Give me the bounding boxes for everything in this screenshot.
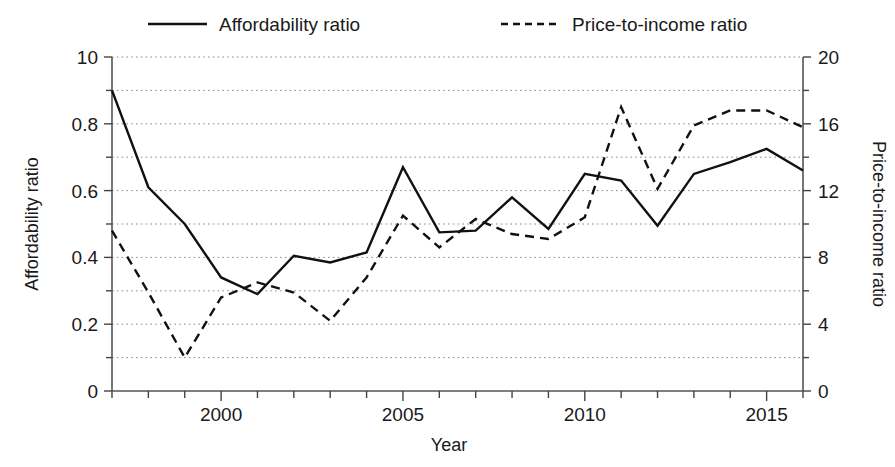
- x-axis-tick-label: 2010: [564, 404, 606, 425]
- data-series-layer: [112, 90, 803, 357]
- y-axis-right-title: Price-to-income ratio: [869, 141, 889, 307]
- legend: Affordability ratio Price-to-income rati…: [148, 14, 747, 35]
- y-axis-right-tick-label: 8: [818, 247, 829, 268]
- y-axis-left-ticks: 00.20.40.60.810: [72, 47, 112, 402]
- x-axis-tick-label: 2000: [200, 404, 242, 425]
- y-axis-right-ticks: 048121620: [803, 47, 839, 402]
- series-line-affordability-ratio: [112, 90, 803, 294]
- x-axis-ticks: 2000200520102015: [112, 391, 803, 425]
- y-axis-left-title: Affordability ratio: [22, 157, 42, 291]
- legend-label-affordability-ratio: Affordability ratio: [219, 14, 360, 35]
- y-axis-right-tick-label: 4: [818, 314, 829, 335]
- y-axis-left-tick-label: 0.2: [72, 314, 98, 335]
- y-axis-left-tick-label: 0.8: [72, 114, 98, 135]
- x-axis-tick-label: 2005: [382, 404, 424, 425]
- y-axis-left-tick-label: 0: [87, 381, 98, 402]
- gridlines: [112, 57, 803, 358]
- y-axis-right-tick-label: 0: [818, 381, 829, 402]
- y-axis-left-tick-label: 0.4: [72, 247, 99, 268]
- chart-figure: Affordability ratio Price-to-income rati…: [0, 0, 895, 467]
- y-axis-right-tick-label: 12: [818, 181, 839, 202]
- y-axis-right-tick-label: 16: [818, 114, 839, 135]
- y-axis-left-tick-label: 0.6: [72, 181, 98, 202]
- legend-label-price-to-income-ratio: Price-to-income ratio: [572, 14, 747, 35]
- axes: [112, 57, 803, 391]
- x-axis-tick-label: 2015: [745, 404, 787, 425]
- chart-svg: Affordability ratio Price-to-income rati…: [0, 0, 895, 467]
- y-axis-right-tick-label: 20: [818, 47, 839, 68]
- x-axis-title: Year: [431, 435, 467, 455]
- y-axis-left-tick-label: 10: [77, 47, 98, 68]
